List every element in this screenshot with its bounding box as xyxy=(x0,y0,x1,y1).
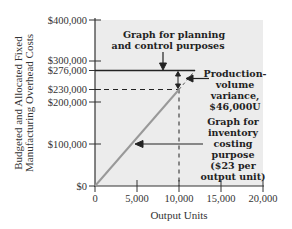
y-tick-276000: $276,000 xyxy=(48,65,87,76)
y-tick-200000: $200,000 xyxy=(48,97,87,108)
y-axis-label-line2: Manufacturing Overhead Costs xyxy=(23,34,35,172)
annotation-inventory-line6: output unit) xyxy=(200,171,265,182)
annotation-pvv-line1: Production- xyxy=(203,68,266,79)
y-tick-400000: $400,000 xyxy=(48,15,87,26)
y-tick-230000: $230,000 xyxy=(48,84,87,95)
annotation-inventory-line5: ($23 per xyxy=(210,160,256,171)
y-tick-0: $0 xyxy=(77,181,88,192)
y-tick-100000: $100,000 xyxy=(48,139,87,150)
chart: $400,000 $300,000 $276,000 $230,000 $200… xyxy=(0,0,292,229)
annotation-planning-line1: Graph for planning xyxy=(123,29,226,40)
annotation-inventory-line4: purpose xyxy=(212,149,255,160)
x-tick-15000: 15,000 xyxy=(207,193,236,204)
annotation-planning-line2: and control purposes xyxy=(112,40,225,51)
annotation-pvv-line2: volume xyxy=(215,79,254,90)
x-tick-20000: 20,000 xyxy=(249,193,278,204)
annotation-inventory-line1: Graph for xyxy=(207,116,260,127)
y-axis-label: Budgeted and Allocated Fixed Manufacturi… xyxy=(12,34,35,172)
annotation-pvv-line4: $46,000U xyxy=(209,101,261,113)
annotation-inventory-line2: inventory xyxy=(208,127,259,138)
annotation-inventory-line3: costing xyxy=(213,138,252,149)
x-axis-label: Output Units xyxy=(150,209,207,221)
x-tick-10000: 10,000 xyxy=(165,193,194,204)
x-tick-0: 0 xyxy=(92,193,97,204)
x-tick-5000: 5,000 xyxy=(125,193,149,204)
